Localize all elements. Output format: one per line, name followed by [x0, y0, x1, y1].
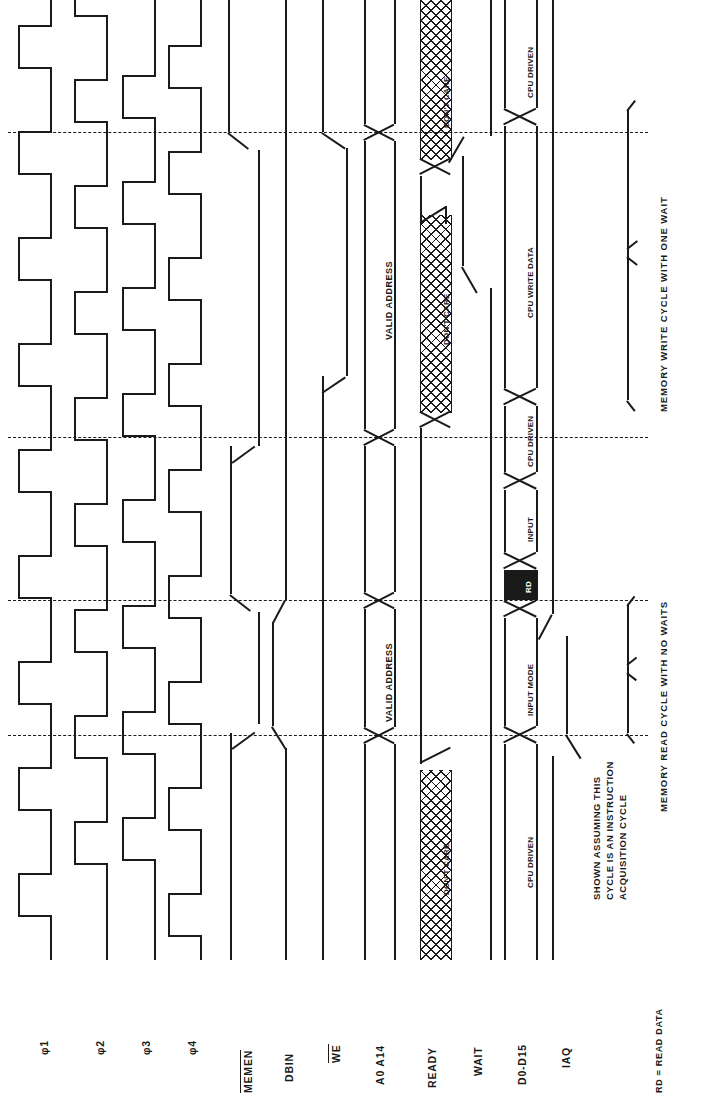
annotation-line-3: ACQUISITION CYCLE: [616, 761, 629, 900]
signal-label-phi4: φ4: [186, 1040, 198, 1055]
signal-label-phi2: φ2: [94, 1040, 106, 1055]
data-label-cpu-driven-2: CPU DRIVEN: [526, 416, 535, 467]
brace-read-cycle-label: MEMORY READ CYCLE WITH NO WAITS: [658, 601, 669, 812]
annotation-line-1: SHOWN ASSUMING THIS: [590, 761, 603, 900]
data-label-input-mode: INPUT MODE: [526, 664, 535, 716]
signal-label-phi1: φ1: [38, 1040, 50, 1055]
signal-label-address: A0 A14: [374, 1045, 386, 1085]
address-label-valid-read: VALID ADDRESS: [384, 643, 394, 722]
data-label-rd: RD: [524, 581, 533, 593]
brace-write-cycle-label: MEMORY WRITE CYCLE WITH ONE WAIT: [658, 196, 669, 412]
signal-label-iaq: IAQ: [560, 1047, 572, 1068]
data-label-cpu-driven-1: CPU DRIVEN: [526, 47, 535, 98]
timing-diagram: VALID ADDRESS VALID ADDRESS DON': [0, 0, 719, 1115]
signal-label-data: D0-D15: [516, 1044, 528, 1085]
signal-label-we-text: WE: [328, 1044, 342, 1063]
signal-label-ready: READY: [426, 1047, 438, 1088]
footnote-rd-read-data: RD = READ DATA: [654, 1008, 664, 1093]
data-label-cpu-driven-3: CPU DRIVEN: [526, 837, 535, 888]
signal-label-memen: MEMEN: [240, 1050, 254, 1093]
signal-label-we: WE: [328, 1044, 342, 1063]
annotation-instruction-cycle: SHOWN ASSUMING THIS CYCLE IS AN INSTRUCT…: [590, 761, 629, 900]
ready-label-dont-care-2: DON'T CARE: [442, 294, 451, 345]
signal-label-phi3: φ3: [140, 1040, 152, 1055]
annotation-line-2: CYCLE IS AN INSTRUCTION: [603, 761, 616, 900]
data-label-cpu-write-data: CPU WRITE DATA: [526, 247, 535, 318]
data-label-input: INPUT: [526, 517, 535, 542]
signal-label-dbin: DBIN: [283, 1053, 295, 1082]
reference-line-4: [8, 735, 648, 736]
address-label-valid-write: VALID ADDRESS: [384, 261, 394, 340]
ready-label-dont-care-1: DON'T CARE: [442, 77, 451, 128]
signal-label-memen-text: MEMEN: [240, 1050, 254, 1093]
ready-label-dont-care-3: DON'T CARE: [442, 844, 451, 895]
signal-label-wait: WAIT: [472, 1047, 484, 1076]
